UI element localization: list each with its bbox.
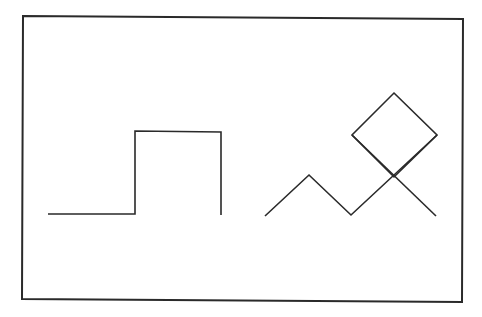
step-shape — [48, 131, 221, 215]
diagram-canvas — [0, 0, 482, 317]
diamond-shape — [352, 93, 437, 177]
zigzag-line — [265, 135, 437, 216]
outer-frame — [22, 16, 463, 302]
